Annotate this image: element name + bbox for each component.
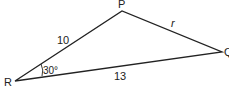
side-label-pq: r — [171, 17, 176, 29]
vertex-label-q: Q — [224, 46, 229, 58]
side-label-rp: 10 — [57, 34, 69, 46]
side-label-rq: 13 — [114, 70, 126, 82]
vertex-label-r: R — [4, 76, 12, 88]
vertex-label-p: P — [118, 0, 125, 10]
triangle-diagram: P Q R 10 r 13 30° — [0, 0, 229, 91]
angle-label-r: 30° — [43, 65, 58, 76]
